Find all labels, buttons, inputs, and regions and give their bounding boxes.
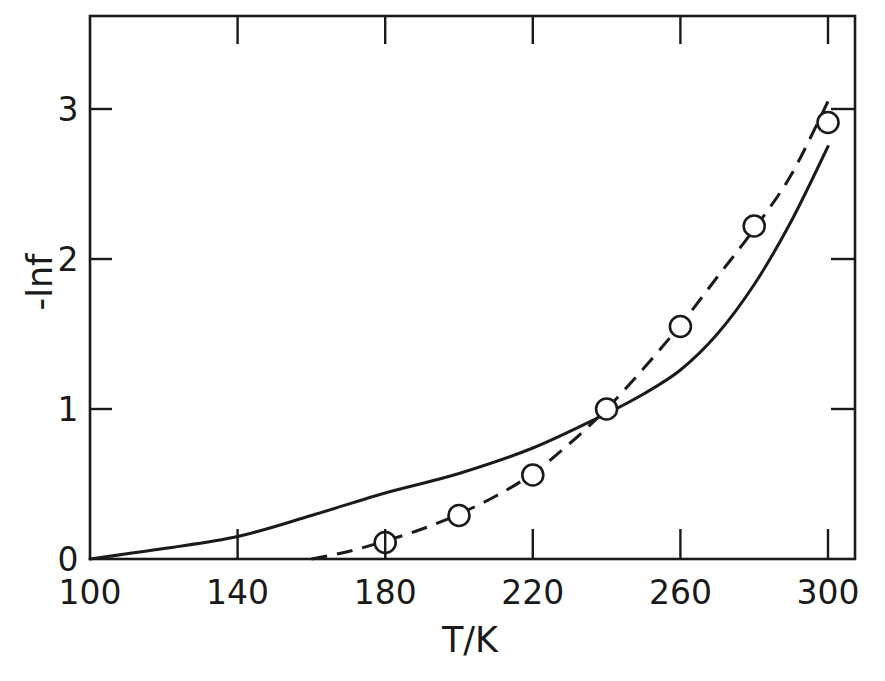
series-layer <box>90 102 839 560</box>
dashed-fit-curve <box>311 102 828 560</box>
line-chart: 100140180220260300 0123 T/K -lnf <box>0 0 885 681</box>
x-axis-label: T/K <box>441 620 499 660</box>
x-axis-tick-labels: 100140180220260300 <box>59 573 860 612</box>
x-tick-label: 220 <box>501 573 564 612</box>
y-tick-label: 2 <box>58 240 79 279</box>
y-axis-tick-labels: 0123 <box>58 90 79 579</box>
y-tick-label: 3 <box>58 90 79 129</box>
x-tick-label: 260 <box>649 573 712 612</box>
data-point-open-circle <box>670 316 691 337</box>
data-point-open-circle <box>596 399 617 420</box>
y-tick-label: 0 <box>58 540 79 579</box>
data-point-open-circle <box>522 465 543 486</box>
data-point-open-circle <box>449 505 470 526</box>
plot-frame <box>90 16 855 559</box>
x-tick-label: 180 <box>354 573 417 612</box>
y-axis-label: -lnf <box>20 253 60 311</box>
y-tick-label: 1 <box>58 390 79 429</box>
y-axis-ticks <box>90 109 855 409</box>
solid-calculated-curve <box>90 147 828 560</box>
data-point-open-circle <box>818 112 839 133</box>
x-tick-label: 300 <box>797 573 860 612</box>
data-point-open-circle <box>744 216 765 237</box>
x-tick-label: 140 <box>206 573 269 612</box>
chart: 100140180220260300 0123 T/K -lnf <box>0 0 885 681</box>
